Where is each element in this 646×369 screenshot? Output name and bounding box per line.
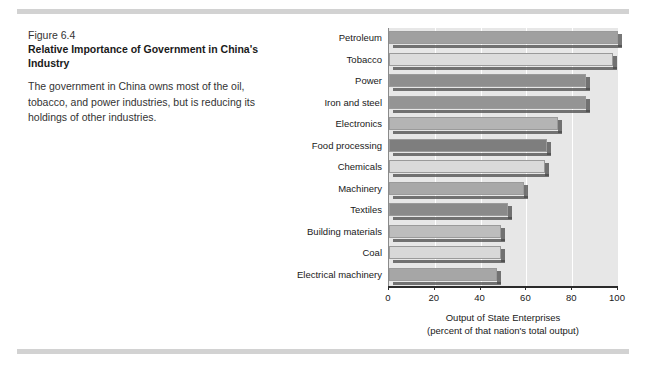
- bar-shadow-bottom: [393, 131, 562, 134]
- figure-description: The government in China owns most of the…: [28, 79, 273, 126]
- bar-shadow: [558, 120, 562, 133]
- category-label-coal: Coal: [284, 247, 382, 258]
- category-label-machinery: Machinery: [284, 183, 382, 194]
- top-divider-rule: [17, 9, 629, 14]
- figure-panel: Figure 6.4 Relative Importance of Govern…: [0, 0, 646, 369]
- bar-shadow-bottom: [393, 153, 551, 156]
- bar-shadow-bottom: [393, 282, 501, 285]
- x-axis-title-sub: (percent of that nation's total output): [388, 324, 618, 337]
- gridline: [618, 28, 619, 286]
- bar-shadow-bottom: [393, 217, 512, 220]
- bar-row: [389, 96, 590, 111]
- x-tick-label-80: 80: [566, 292, 577, 303]
- category-label-building-materials: Building materials: [284, 226, 382, 237]
- x-tick: [525, 286, 526, 290]
- bar-coal[interactable]: [389, 246, 501, 259]
- figure-title: Relative Importance of Government in Chi…: [28, 43, 273, 70]
- x-tick-label-100: 100: [609, 292, 625, 303]
- bar-shadow: [501, 228, 505, 241]
- bar-shadow: [613, 56, 617, 69]
- bar-shadow: [524, 185, 528, 198]
- bar-shadow-bottom: [393, 110, 590, 113]
- bar-food-processing[interactable]: [389, 139, 547, 152]
- bar-shadow-bottom: [393, 174, 549, 177]
- x-axis-title-main: Output of State Enterprises: [388, 311, 618, 324]
- bar-power[interactable]: [389, 74, 586, 87]
- category-label-power: Power: [284, 75, 382, 86]
- x-tick: [434, 286, 435, 290]
- bar-shadow: [497, 271, 501, 284]
- bar-row: [389, 31, 622, 46]
- bar-shadow-bottom: [393, 88, 590, 91]
- x-tick-label-40: 40: [474, 292, 485, 303]
- plot-area: [388, 28, 618, 286]
- bar-row: [389, 117, 562, 132]
- bar-row: [389, 74, 590, 89]
- x-axis-title: Output of State Enterprises (percent of …: [388, 311, 618, 337]
- bar-shadow-bottom: [393, 67, 617, 70]
- bar-shadow-bottom: [393, 260, 505, 263]
- bar-row: [389, 160, 549, 175]
- category-label-electronics: Electronics: [284, 118, 382, 129]
- bar-shadow-bottom: [393, 239, 505, 242]
- x-axis-line: [388, 286, 618, 288]
- caption-column: Figure 6.4 Relative Importance of Govern…: [28, 29, 273, 126]
- category-axis-labels: PetroleumTobaccoPowerIron and steelElect…: [284, 26, 382, 286]
- bar-machinery[interactable]: [389, 182, 524, 195]
- bar-shadow: [586, 77, 590, 90]
- bar-shadow: [618, 34, 622, 47]
- x-tick-label-60: 60: [520, 292, 531, 303]
- category-label-petroleum: Petroleum: [284, 32, 382, 43]
- bar-row: [389, 53, 617, 68]
- category-label-tobacco: Tobacco: [284, 54, 382, 65]
- bar-shadow: [586, 99, 590, 112]
- bar-tobacco[interactable]: [389, 53, 613, 66]
- x-tick-label-20: 20: [429, 292, 440, 303]
- x-tick: [617, 286, 618, 290]
- category-label-chemicals: Chemicals: [284, 161, 382, 172]
- bar-building-materials[interactable]: [389, 225, 501, 238]
- bottom-divider-rule: [17, 349, 629, 354]
- bar-chart: PetroleumTobaccoPowerIron and steelElect…: [284, 26, 634, 336]
- bar-electronics[interactable]: [389, 117, 558, 130]
- bar-row: [389, 182, 528, 197]
- bar-chemicals[interactable]: [389, 160, 545, 173]
- category-label-iron-and-steel: Iron and steel: [284, 97, 382, 108]
- bar-petroleum[interactable]: [389, 31, 618, 44]
- category-label-textiles: Textiles: [284, 204, 382, 215]
- bar-textiles[interactable]: [389, 203, 508, 216]
- x-tick: [480, 286, 481, 290]
- bar-row: [389, 246, 505, 261]
- bar-shadow-bottom: [393, 45, 622, 48]
- bar-row: [389, 139, 551, 154]
- bar-shadow: [508, 206, 512, 219]
- category-label-food-processing: Food processing: [284, 140, 382, 151]
- bar-row: [389, 203, 512, 218]
- bar-row: [389, 225, 505, 240]
- bar-shadow: [547, 142, 551, 155]
- x-tick-label-0: 0: [385, 292, 390, 303]
- figure-number: Figure 6.4: [28, 29, 273, 42]
- x-tick: [571, 286, 572, 290]
- bar-iron-and-steel[interactable]: [389, 96, 586, 109]
- bar-shadow-bottom: [393, 196, 528, 199]
- x-tick: [388, 286, 389, 290]
- bar-shadow: [545, 163, 549, 176]
- bar-electrical-machinery[interactable]: [389, 268, 497, 281]
- category-label-electrical-machinery: Electrical machinery: [284, 269, 382, 280]
- bar-row: [389, 268, 501, 283]
- bar-shadow: [501, 249, 505, 262]
